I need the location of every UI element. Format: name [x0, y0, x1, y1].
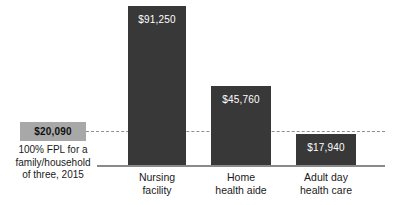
x-axis-label-home-health-aide: Home health aide: [196, 171, 286, 196]
bar-value-adult-day-health-care: $17,940: [296, 142, 356, 153]
bar-nursing-facility[interactable]: [128, 6, 186, 165]
fpl-caption-line-1: 100% FPL for a: [0, 144, 106, 157]
x-axis-line: [97, 165, 385, 167]
fpl-threshold-caption: 100% FPL for a family/household of three…: [0, 144, 106, 182]
x-axis-label-line-1: Home: [196, 171, 286, 184]
bar-value-home-health-aide: $45,760: [211, 94, 271, 105]
fpl-caption-line-3: of three, 2015: [0, 169, 106, 182]
fpl-threshold-badge: $20,090: [20, 122, 86, 141]
fpl-caption-line-2: family/household: [0, 157, 106, 170]
fpl-threshold-value: $20,090: [34, 126, 72, 137]
x-axis-label-line-2: facility: [112, 184, 202, 197]
bar-chart: $91,250 $45,760 $17,940 Nursing facility…: [0, 0, 395, 205]
x-axis-label-line-2: health aide: [196, 184, 286, 197]
bar-value-nursing-facility: $91,250: [128, 14, 186, 25]
x-axis-label-line-2: health care: [281, 184, 371, 197]
x-axis-label-nursing-facility: Nursing facility: [112, 171, 202, 196]
x-axis-label-line-1: Adult day: [281, 171, 371, 184]
x-axis-label-line-1: Nursing: [112, 171, 202, 184]
x-axis-label-adult-day-health-care: Adult day health care: [281, 171, 371, 196]
